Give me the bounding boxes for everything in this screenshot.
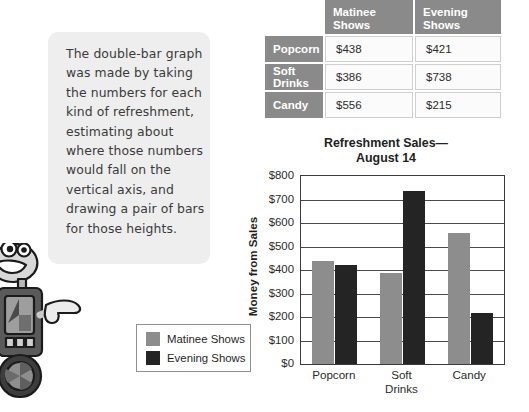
bar-soft-drinks-matinee: [380, 273, 402, 364]
table-cell-soft-drinks-evening: $738: [415, 64, 501, 90]
legend-entry-matinee: Matinee Shows: [146, 332, 245, 346]
x-axis-tick-label: Popcorn: [300, 368, 368, 382]
bar-popcorn-matinee: [312, 261, 334, 364]
chart-title-line-1: Refreshment Sales—: [286, 136, 486, 151]
sales-table: Matinee Shows Evening Shows Popcorn $438…: [265, 0, 501, 120]
bar-chart: Refreshment Sales— August 14 Money from …: [226, 130, 529, 412]
table-column-header-matinee: Matinee Shows: [325, 0, 413, 34]
y-axis-tick-label: $0: [248, 357, 294, 369]
x-axis-tick-label: SoftDrinks: [368, 368, 436, 396]
chart-title-line-2: August 14: [286, 151, 486, 166]
chart-legend: Matinee Shows Evening Shows: [136, 324, 251, 372]
legend-label-evening: Evening Shows: [167, 352, 246, 364]
y-axis-tick-label: $600: [248, 216, 294, 228]
legend-swatch-evening: [146, 351, 160, 365]
table-row-header-candy: Candy: [265, 92, 323, 118]
y-axis-tick-label: $500: [248, 240, 294, 252]
x-axis-tick-label: Candy: [435, 368, 503, 382]
callout-text: The double-bar graph was made by taking …: [66, 44, 206, 238]
table-row-header-soft-drinks: Soft Drinks: [265, 64, 323, 90]
table-cell-popcorn-matinee: $438: [325, 36, 413, 62]
y-axis-tick-label: $400: [248, 263, 294, 275]
table-row-header-popcorn: Popcorn: [265, 36, 323, 62]
bar-soft-drinks-evening: [403, 191, 425, 364]
bar-popcorn-evening: [335, 265, 357, 364]
y-axis-tick-label: $300: [248, 287, 294, 299]
chart-title: Refreshment Sales— August 14: [286, 136, 486, 166]
y-axis-tick-label: $100: [248, 334, 294, 346]
table-cell-soft-drinks-matinee: $386: [325, 64, 413, 90]
legend-label-matinee: Matinee Shows: [167, 333, 245, 345]
legend-entry-evening: Evening Shows: [146, 351, 246, 365]
plot-area: [300, 175, 505, 365]
bar-candy-evening: [471, 313, 493, 364]
robot-mascot-icon: [0, 243, 105, 412]
y-axis-tick-label: $800: [248, 169, 294, 181]
robot-mascot: [0, 243, 105, 412]
y-axis-tick-label: $200: [248, 310, 294, 322]
table-cell-candy-evening: $215: [415, 92, 501, 118]
table-column-header-evening: Evening Shows: [415, 0, 501, 34]
bar-candy-matinee: [448, 233, 470, 364]
y-axis-tick-label: $700: [248, 193, 294, 205]
table-cell-candy-matinee: $556: [325, 92, 413, 118]
table-cell-popcorn-evening: $421: [415, 36, 501, 62]
legend-swatch-matinee: [146, 332, 160, 346]
